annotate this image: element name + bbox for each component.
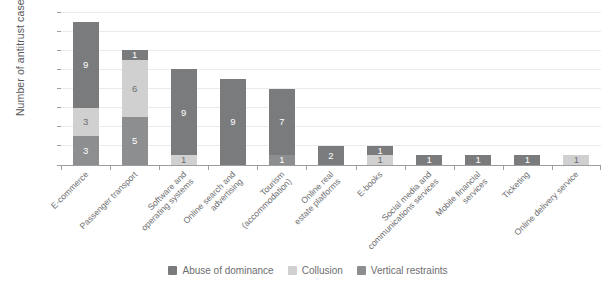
bar-segment: 7: [269, 89, 295, 156]
x-axis-label: Ticketing: [501, 170, 532, 201]
legend-label: Vertical restraints: [371, 265, 448, 276]
bar-segment-value: 5: [132, 136, 137, 146]
bar-segment-value: 1: [574, 155, 579, 165]
bar-segment: 9: [73, 22, 99, 108]
bar-segment-value: 3: [83, 117, 88, 127]
bar-segment: 1: [514, 155, 540, 165]
x-axis-label-line: communications services: [366, 177, 441, 252]
x-axis-tick-mark: [552, 165, 553, 170]
x-axis-tick-mark: [600, 165, 601, 170]
legend-item: Vertical restraints: [357, 265, 448, 276]
bar-segment-value: 1: [377, 155, 382, 165]
bar-stack: 1: [465, 155, 491, 165]
bar-stack: 1: [563, 155, 589, 165]
bar-segment: 1: [367, 146, 393, 156]
x-axis-label: Online realestate platforms: [286, 170, 343, 227]
x-axis-tick-mark: [503, 165, 504, 170]
x-axis-label: E-books: [356, 170, 385, 199]
bar-segment: 1: [416, 155, 442, 165]
x-axis-tick-mark: [257, 165, 258, 170]
bar-stack: 1: [514, 155, 540, 165]
bar-segment-value: 7: [279, 117, 284, 127]
legend-item: Abuse of dominance: [168, 265, 273, 276]
bar-segment-value: 3: [83, 146, 88, 156]
bar-stack: 339: [73, 22, 99, 165]
bar-segment-value: 1: [181, 155, 186, 165]
bar-segment-value: 2: [328, 151, 333, 161]
bar-segment-value: 1: [377, 146, 382, 156]
x-axis-label-line: E-commerce: [49, 170, 90, 211]
bar-segment-value: 6: [132, 84, 137, 94]
bar-segment: 1: [563, 155, 589, 165]
bar-segment-value: 9: [181, 108, 186, 118]
bar-stack: 9: [220, 79, 246, 165]
bar-segment-value: 9: [83, 60, 88, 70]
bar-segment: 2: [318, 146, 344, 165]
x-axis-tick-mark: [208, 165, 209, 170]
bar-segment: 1: [122, 50, 148, 60]
x-axis-tick-mark: [454, 165, 455, 170]
bar-segment: 1: [171, 155, 197, 165]
legend-label: Collusion: [302, 265, 343, 276]
x-axis-tick-mark: [356, 165, 357, 170]
bar-group: 339561199172111111: [61, 12, 601, 165]
bar-segment: 3: [73, 108, 99, 137]
legend-swatch: [288, 266, 297, 275]
bar-segment: 5: [122, 117, 148, 165]
x-axis-label: E-commerce: [49, 170, 90, 211]
x-axis-tick-mark: [405, 165, 406, 170]
bar-stack: 11: [367, 146, 393, 165]
y-axis-title: Number of antitrust cases: [14, 0, 30, 135]
x-axis-tick-mark: [306, 165, 307, 170]
x-axis-label: Mobile financialservices: [434, 170, 489, 225]
bar-segment: 1: [465, 155, 491, 165]
bar-stack: 561: [122, 50, 148, 165]
bar-segment: 9: [220, 79, 246, 165]
bar-segment: 6: [122, 60, 148, 117]
chart-legend: Abuse of dominanceCollusionVertical rest…: [0, 265, 616, 276]
legend-label: Abuse of dominance: [182, 265, 273, 276]
x-axis-tick-mark: [61, 165, 62, 170]
bar-segment: 1: [269, 155, 295, 165]
bar-stack: 19: [171, 69, 197, 165]
bar-segment-value: 1: [476, 155, 481, 165]
bar-stack: 1: [416, 155, 442, 165]
x-axis-label-line: Ticketing: [501, 170, 532, 201]
bar-segment-value: 1: [279, 155, 284, 165]
bar-segment-value: 1: [132, 50, 137, 60]
x-axis-label: Tourism(accommodation): [233, 170, 293, 230]
bar-segment: 3: [73, 136, 99, 165]
bar-segment: 1: [367, 155, 393, 165]
bar-stack: 2: [318, 146, 344, 165]
x-axis-label-line: E-books: [356, 170, 385, 199]
bar-segment-value: 1: [427, 155, 432, 165]
bar-segment-value: 1: [525, 155, 530, 165]
legend-swatch: [168, 266, 177, 275]
antitrust-cases-stacked-bar-chart: Number of antitrust cases 0246810121416 …: [0, 0, 616, 284]
x-axis-tick-mark: [159, 165, 160, 170]
bar-segment-value: 9: [230, 117, 235, 127]
legend-swatch: [357, 266, 366, 275]
bar-stack: 17: [269, 89, 295, 166]
bar-segment: 9: [171, 69, 197, 155]
x-axis-tick-mark: [110, 165, 111, 170]
legend-item: Collusion: [288, 265, 343, 276]
plot-area: 0246810121416 339561199172111111: [61, 12, 601, 165]
